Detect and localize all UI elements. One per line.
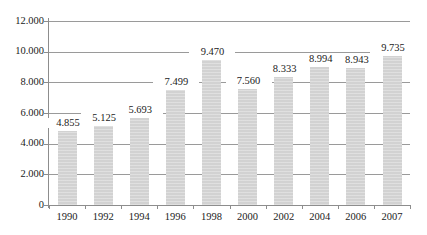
bar [274, 77, 293, 205]
bar-chart: 02.0004.0006.0008.00010.00012.000 4.8555… [0, 0, 427, 235]
y-axis-tick-label: 6.000 [20, 108, 44, 119]
x-axis-tick-label: 1992 [85, 212, 121, 223]
bar [58, 131, 77, 205]
bar [383, 56, 402, 205]
bar-value-label: 7.499 [153, 77, 199, 88]
x-axis-tick [338, 205, 339, 209]
bar [166, 90, 185, 205]
x-axis-tick [410, 205, 411, 209]
x-axis-tick [85, 205, 86, 209]
bar-value-label: 5.693 [117, 105, 163, 116]
x-axis-tick-label: 2002 [266, 212, 302, 223]
plot-area: 4.8555.1255.6937.4999.4707.5608.3338.994… [49, 21, 410, 205]
x-axis-tick [193, 205, 194, 209]
gridline [49, 21, 410, 22]
bar [130, 118, 149, 205]
bar [238, 89, 257, 205]
x-axis-tick-label: 2007 [374, 212, 410, 223]
bar [202, 60, 221, 205]
x-axis-tick-label: 2006 [338, 212, 374, 223]
x-axis-tick [266, 205, 267, 209]
x-axis-tick-label: 2004 [302, 212, 338, 223]
x-axis-tick-label: 1994 [121, 212, 157, 223]
x-axis-tick [230, 205, 231, 209]
bar [310, 67, 329, 205]
x-axis-line [44, 205, 411, 206]
bar-value-label: 8.333 [262, 64, 308, 75]
y-axis-tick-label: 2.000 [20, 169, 44, 180]
x-axis-tick [374, 205, 375, 209]
x-axis-tick-label: 1990 [49, 212, 85, 223]
bar [346, 68, 365, 205]
bar-value-label: 9.470 [189, 47, 235, 58]
bar-value-label: 8.943 [334, 55, 380, 66]
x-axis-tick [302, 205, 303, 209]
x-axis-tick [49, 205, 50, 209]
y-axis-tick-label: 12.000 [15, 16, 44, 27]
bar [94, 126, 113, 205]
y-axis-tick-label: 8.000 [20, 77, 44, 88]
x-axis-tick-label: 1998 [193, 212, 229, 223]
x-axis-tick-label: 1996 [157, 212, 193, 223]
x-axis-tick-label: 2000 [230, 212, 266, 223]
y-axis-tick-label: 4.000 [20, 138, 44, 149]
x-axis-tick [121, 205, 122, 209]
bar-value-label: 7.560 [226, 76, 272, 87]
y-axis-tick-label: 10.000 [15, 46, 44, 57]
x-axis-tick [157, 205, 158, 209]
bar-value-label: 9.735 [370, 43, 416, 54]
